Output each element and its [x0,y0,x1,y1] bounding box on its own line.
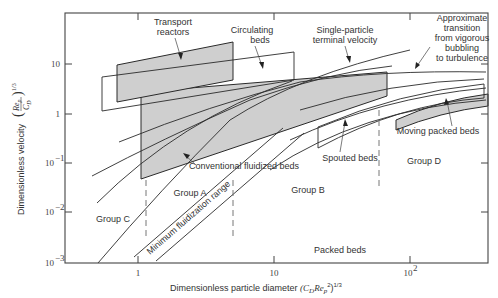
svg-text:(: ( [10,112,26,117]
svg-text:Dimensionless velocity: Dimensionless velocity [16,123,26,215]
x-tick-100: 10 [404,268,414,278]
label-approx-transition-3: from vigorous [435,33,490,43]
label-circulating-beds-1: Circulating [231,25,274,35]
y-tick-0.001: 10 [45,258,55,268]
fluidization-regime-map: 10 1 10 −1 10 −2 10 −3 1 10 10 2 Dimensi… [0,0,498,298]
arrowhead-circulating-beds [259,62,264,69]
label-approx-transition-2: transition [444,23,481,33]
label-transport-reactors-1: Transport [154,17,193,27]
arrow-approx-transition [417,47,430,66]
label-approx-transition-4: bubbling [445,43,479,53]
arrowhead-spouted-beds [343,119,348,126]
x-tick-100-exp: 2 [413,263,418,273]
x-tick-10: 10 [270,268,280,278]
y-tick-0.01-exp: −2 [55,202,65,212]
label-conventional-fluidized-beds: Conventional fluidized beds [189,161,300,171]
label-approx-transition-5: to turbulence [436,53,488,63]
y-tick-0.01: 10 [45,207,55,217]
label-group-a: Group A [173,188,206,198]
label-group-b: Group B [291,185,325,195]
label-circulating-beds-2: beds [250,35,270,45]
x-tick-1: 1 [136,268,141,278]
label-single-particle-1: Single-particle [316,25,373,35]
label-group-c: Group C [96,214,131,224]
label-single-particle-2: terminal velocity [313,35,378,45]
label-transport-reactors-2: reactors [157,27,190,37]
y-tick-1: 1 [56,109,61,119]
y-tick-10: 10 [51,59,61,69]
y-tick-0.1-exp: −1 [55,153,65,163]
arrowhead-single-particle [346,56,351,63]
y-tick-0.1: 10 [45,158,55,168]
svg-text:Rep: Rep [12,100,22,112]
label-group-d: Group D [407,156,442,166]
y-tick-0.001-exp: −3 [55,253,65,263]
label-approx-transition-1: Approximate [437,13,488,23]
label-spouted-beds: Spouted beds [322,153,378,163]
y-axis-title: Dimensionless velocity ( Rep CD ) 1/3 [10,83,32,215]
x-axis-title: Dimensionless particle diameter (CDRep2)… [170,282,342,295]
svg-text:1/3: 1/3 [11,83,17,91]
label-moving-packed-beds: Moving packed beds [397,126,480,136]
svg-text:CD: CD [22,100,32,110]
label-packed-beds: Packed beds [314,245,367,255]
